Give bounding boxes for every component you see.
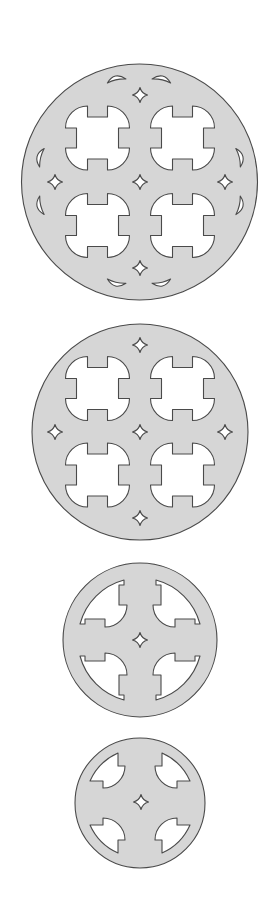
- disc-1-four-windows-lenses: [22, 64, 258, 300]
- disc-4-cross: [75, 738, 205, 868]
- cut-pattern-sheet: [0, 0, 272, 902]
- disc-2-four-windows: [32, 324, 248, 540]
- disc-3-ringed-cross: [63, 563, 217, 717]
